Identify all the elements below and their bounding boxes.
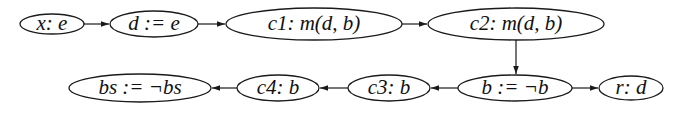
node-r-d: r: d (599, 75, 663, 100)
node-label: d := e (128, 11, 180, 35)
node-label: r: d (616, 75, 647, 99)
node-label: x: e (36, 11, 68, 35)
node-label: c4: b (257, 75, 300, 99)
node-label: c2: m(d, b) (470, 11, 563, 35)
node-c2-call: c2: m(d, b) (428, 8, 604, 40)
node-label: b := ¬b (482, 75, 549, 99)
node-label: bs := ¬bs (98, 75, 181, 99)
node-label: c3: b (368, 75, 411, 99)
node-label: c1: m(d, b) (268, 11, 361, 35)
node-c1-call: c1: m(d, b) (226, 8, 402, 40)
node-c4-b: c4: b (237, 75, 319, 101)
node-d-assign-e: d := e (110, 11, 198, 37)
node-b-assign-not-b: b := ¬b (458, 75, 572, 101)
node-bs-assign-not-bs: bs := ¬bs (69, 74, 211, 102)
flow-graph: x: e d := e c1: m(d, b) c2: m(d, b) b :=… (0, 0, 678, 115)
node-x-e: x: e (20, 11, 84, 35)
node-c3-b: c3: b (348, 75, 430, 101)
